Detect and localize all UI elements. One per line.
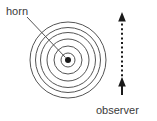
diagram-canvas: horn observer	[0, 0, 157, 121]
horn-source-dot	[65, 57, 71, 63]
observer-path-arrow	[118, 12, 126, 95]
wavefront-diagram: horn observer	[0, 0, 157, 121]
observer-arrowhead-down	[118, 77, 126, 87]
horn-label: horn	[6, 5, 28, 17]
observer-arrowhead-up	[118, 12, 126, 22]
observer-label: observer	[96, 104, 139, 116]
